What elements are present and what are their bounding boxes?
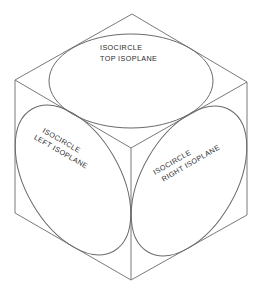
isocircle-right: ISOCIRCLE RIGHT ISOPLANE — [107, 86, 259, 275]
cube-inner-edge-right — [131, 82, 247, 148]
isocircle-top-label-line1: ISOCIRCLE — [100, 43, 142, 52]
isocircle-right-ellipse — [107, 86, 259, 275]
isometric-cube-diagram: ISOCIRCLE TOP ISOPLANE ISOCIRCLE LEFT IS… — [0, 0, 259, 292]
isocircle-top-label-line2: TOP ISOPLANE — [100, 54, 157, 63]
